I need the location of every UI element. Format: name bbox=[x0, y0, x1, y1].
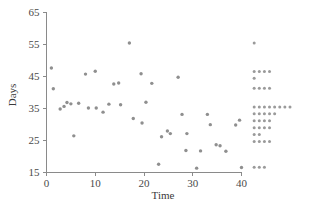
marginal-dot bbox=[263, 112, 266, 115]
marginal-dot bbox=[253, 126, 256, 129]
marginal-dot bbox=[258, 126, 261, 129]
data-point bbox=[62, 105, 65, 108]
data-point bbox=[52, 87, 55, 90]
data-point bbox=[65, 101, 68, 104]
data-point bbox=[209, 123, 212, 126]
marginal-dot bbox=[258, 87, 261, 90]
data-point bbox=[139, 72, 142, 75]
marginal-dot bbox=[268, 126, 271, 129]
data-point bbox=[132, 117, 135, 120]
x-tick-label: 20 bbox=[139, 177, 151, 189]
x-tick-label: 0 bbox=[44, 177, 50, 189]
marginal-dot bbox=[263, 70, 266, 73]
marginal-dot bbox=[258, 70, 261, 73]
marginal-dot bbox=[263, 140, 266, 143]
data-point bbox=[128, 41, 131, 44]
data-point bbox=[199, 149, 202, 152]
marginal-dot bbox=[263, 87, 266, 90]
tick-labels-group: 152535455565010203040 bbox=[29, 6, 248, 189]
axes-group bbox=[47, 12, 242, 172]
data-point bbox=[224, 150, 227, 153]
marginal-dot bbox=[253, 42, 256, 45]
x-tick-label: 40 bbox=[236, 177, 248, 189]
data-point bbox=[185, 132, 188, 135]
data-point bbox=[140, 121, 143, 124]
y-tick-label: 15 bbox=[29, 166, 41, 178]
y-axis-title: Days bbox=[6, 84, 18, 107]
data-point bbox=[50, 66, 53, 69]
data-point bbox=[72, 134, 75, 137]
data-point bbox=[157, 163, 160, 166]
marginal-dot bbox=[268, 119, 271, 122]
marginal-dot bbox=[263, 119, 266, 122]
marginal-dot bbox=[283, 106, 286, 109]
data-point bbox=[144, 101, 147, 104]
marginal-dot bbox=[278, 106, 281, 109]
scatter-plot-figure: 152535455565010203040 Time Days bbox=[0, 0, 310, 205]
y-tick-label: 55 bbox=[29, 38, 41, 50]
marginal-dot bbox=[268, 70, 271, 73]
data-point bbox=[184, 149, 187, 152]
data-point bbox=[150, 82, 153, 85]
marginal-dot bbox=[253, 70, 256, 73]
data-point bbox=[119, 103, 122, 106]
marginal-dot-histogram-group bbox=[253, 42, 292, 169]
marginal-dot bbox=[258, 112, 261, 115]
data-point bbox=[58, 107, 61, 110]
y-tick-label: 45 bbox=[29, 70, 41, 82]
marginal-dot bbox=[253, 133, 256, 136]
marginal-dot bbox=[263, 126, 266, 129]
x-axis-title: Time bbox=[152, 189, 175, 201]
data-point bbox=[238, 118, 241, 121]
marginal-dot bbox=[263, 166, 266, 169]
marginal-dot bbox=[263, 106, 266, 109]
marginal-dot bbox=[253, 106, 256, 109]
marginal-dot bbox=[253, 77, 256, 80]
marginal-dot bbox=[258, 140, 261, 143]
marginal-dot bbox=[268, 87, 271, 90]
marginal-dot bbox=[253, 119, 256, 122]
data-point bbox=[166, 129, 169, 132]
data-point bbox=[94, 70, 97, 73]
y-tick-label: 65 bbox=[29, 6, 41, 18]
data-point bbox=[218, 144, 221, 147]
marginal-dot bbox=[253, 166, 256, 169]
data-points-group bbox=[50, 41, 244, 170]
marginal-dot bbox=[258, 106, 261, 109]
y-tick-label: 25 bbox=[29, 134, 41, 146]
marginal-dot bbox=[253, 140, 256, 143]
marginal-dot bbox=[253, 112, 256, 115]
data-point bbox=[77, 102, 80, 105]
marginal-dot bbox=[258, 133, 261, 136]
marginal-dot bbox=[268, 112, 271, 115]
data-point bbox=[95, 106, 98, 109]
marginal-dot bbox=[268, 140, 271, 143]
marginal-dot bbox=[258, 166, 261, 169]
marginal-dot bbox=[273, 106, 276, 109]
marginal-dot bbox=[258, 119, 261, 122]
x-tick-label: 30 bbox=[187, 177, 199, 189]
data-point bbox=[169, 132, 172, 135]
data-point bbox=[214, 143, 217, 146]
marginal-dot bbox=[289, 106, 292, 109]
ticks-group bbox=[43, 12, 242, 176]
y-tick-label: 35 bbox=[29, 102, 41, 114]
data-point bbox=[112, 82, 115, 85]
data-point bbox=[180, 113, 183, 116]
data-point bbox=[206, 113, 209, 116]
data-point bbox=[240, 166, 243, 169]
marginal-dot bbox=[273, 112, 276, 115]
data-point bbox=[160, 135, 163, 138]
data-point bbox=[69, 102, 72, 105]
data-point bbox=[87, 106, 90, 109]
data-point bbox=[101, 110, 104, 113]
plot-canvas: 152535455565010203040 Time Days bbox=[0, 0, 310, 205]
data-point bbox=[176, 76, 179, 79]
data-point bbox=[107, 102, 110, 105]
x-tick-label: 10 bbox=[90, 177, 102, 189]
marginal-dot bbox=[268, 106, 271, 109]
data-point bbox=[117, 81, 120, 84]
data-point bbox=[195, 166, 198, 169]
marginal-dot bbox=[253, 87, 256, 90]
data-point bbox=[84, 72, 87, 75]
